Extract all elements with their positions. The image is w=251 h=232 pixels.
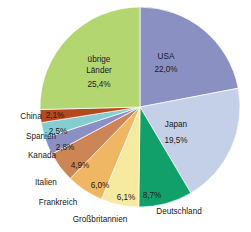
slice-name-label: USA xyxy=(158,52,175,61)
slice-name-label: Italien xyxy=(35,178,57,187)
pie-slices-group xyxy=(40,7,240,207)
slice-name-label: Kanada xyxy=(28,151,57,160)
slice-value-label: 6,0% xyxy=(91,181,110,190)
slice-value-label: 19,5% xyxy=(164,136,187,145)
slice-name-label: Frankreich xyxy=(39,198,78,207)
slice-value-label: 8,7% xyxy=(143,191,162,200)
slice-name-label: Japan xyxy=(165,120,188,129)
slice-value-label: 25,4% xyxy=(87,80,110,89)
slice-value-label: 2,8% xyxy=(56,143,75,152)
slice-value-label: 2,5% xyxy=(49,127,68,136)
slice-name-label: China xyxy=(20,112,42,121)
slice-name-label: Deutschland xyxy=(156,207,202,216)
pie-chart: USA22,0%Japan19,5%Deutschland8,7%Großbri… xyxy=(0,0,251,232)
slice-value-label: 22,0% xyxy=(154,65,177,74)
slice-value-label: 2,1% xyxy=(46,111,65,120)
slice-name-label: Großbritannien xyxy=(73,215,128,224)
pie-chart-svg: USA22,0%Japan19,5%Deutschland8,7%Großbri… xyxy=(0,0,251,232)
slice-value-label: 6,1% xyxy=(117,193,136,202)
slice-value-label: 4,9% xyxy=(71,161,90,170)
